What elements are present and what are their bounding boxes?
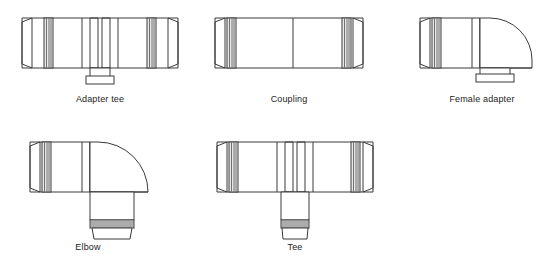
figure-female-adapter bbox=[418, 8, 538, 88]
figure-tee bbox=[215, 134, 375, 239]
figure-coupling bbox=[213, 8, 365, 88]
figure-adapter-tee bbox=[20, 8, 180, 88]
caption-coupling: Coupling bbox=[213, 94, 365, 104]
caption-elbow: Elbow bbox=[20, 242, 156, 252]
diagram-sheet: Adapter tee Coupling bbox=[0, 0, 551, 269]
caption-tee: Tee bbox=[215, 242, 375, 252]
caption-adapter-tee: Adapter tee bbox=[20, 94, 180, 104]
figure-elbow bbox=[28, 134, 148, 239]
caption-female-adapter: Female adapter bbox=[418, 94, 546, 104]
